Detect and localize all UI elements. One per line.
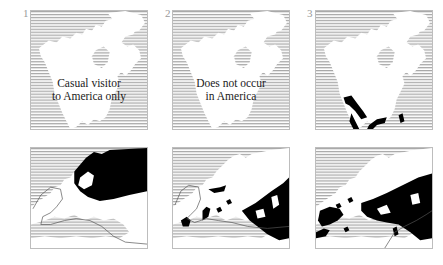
map-america-1: Casual visitor to America only — [30, 10, 148, 130]
north-america-map — [316, 11, 432, 129]
panel-number-1: 1 — [23, 8, 29, 19]
caption-casual-visitor: Casual visitor to America only — [31, 77, 147, 103]
caption-does-not-occur: Does not occur in America — [173, 77, 289, 103]
europe-map — [173, 148, 289, 248]
map-europe-2 — [172, 147, 290, 249]
europe-map — [316, 148, 432, 248]
europe-map — [31, 148, 147, 248]
map-america-2: Does not occur in America — [172, 10, 290, 130]
map-europe-3 — [315, 147, 433, 249]
map-america-3 — [315, 10, 433, 130]
panel-number-2: 2 — [165, 8, 171, 19]
panel-number-3: 3 — [307, 8, 313, 19]
north-america-map — [31, 11, 147, 129]
map-europe-1 — [30, 147, 148, 249]
north-america-map — [173, 11, 289, 129]
